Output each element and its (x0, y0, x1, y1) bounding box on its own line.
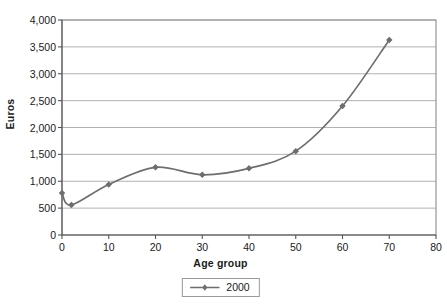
legend-item-label: 2000 (226, 281, 249, 293)
y-tick-label: 2,500 (8, 95, 56, 106)
y-tick-label: 3,500 (8, 41, 56, 52)
x-tick-label: 30 (187, 241, 217, 253)
x-tick-label: 0 (47, 241, 77, 253)
y-tick-label: 1,000 (8, 176, 56, 187)
y-tick-label: 3,000 (8, 68, 56, 79)
x-tick-label: 10 (94, 241, 124, 253)
y-tick-label: 2,000 (8, 122, 56, 133)
x-tick-label: 40 (234, 241, 264, 253)
x-axis-tick-labels: 01020304050607080 (62, 241, 436, 255)
y-tick-label: 0 (8, 230, 56, 241)
x-tick-label: 20 (141, 241, 171, 253)
x-tick-label: 70 (374, 241, 404, 253)
x-tick-label: 50 (281, 241, 311, 253)
x-tick-label: 60 (328, 241, 358, 253)
y-axis-tick-labels: 05001,0001,5002,0002,5003,0003,5004,000 (8, 16, 56, 238)
chart-legend: 2000 (181, 278, 259, 297)
legend-line-marker-icon (189, 282, 219, 293)
y-tick-label: 1,500 (8, 149, 56, 160)
y-tick-label: 4,000 (8, 15, 56, 26)
y-tick-label: 500 (8, 203, 56, 214)
x-tick-label: 80 (421, 241, 447, 253)
x-axis-title: Age group (0, 257, 441, 269)
